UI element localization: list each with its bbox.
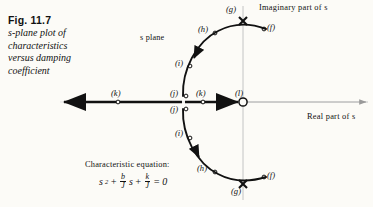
equation-title: Characteristic equation: [85, 160, 170, 169]
real-axis-label: Real part of s [307, 112, 355, 121]
marker-j-lower [184, 107, 188, 111]
label-k-left: (k) [111, 88, 121, 98]
label-i-upper: (i) [175, 58, 183, 68]
equation-term-s-linear: s [129, 176, 133, 187]
label-f-upper: (f) [267, 22, 275, 32]
equation-term-s: s [99, 176, 103, 187]
label-i-lower: (i) [175, 128, 183, 138]
equation-plus-1: + [110, 176, 117, 187]
marker-k-left [116, 100, 120, 104]
marker-l-origin [239, 98, 247, 106]
marker-k-right [201, 100, 205, 104]
imaginary-axis-label: Imaginary part of s [259, 3, 328, 12]
equation-equals-zero: = 0 [153, 176, 167, 187]
locus-arc-upper [183, 25, 266, 96]
label-g-upper: (g) [226, 4, 236, 14]
marker-j-upper [184, 94, 188, 98]
label-l-origin: (l) [235, 88, 243, 98]
equation-fraction-b-over-J: b J [120, 173, 126, 190]
label-j-upper: (j) [170, 88, 178, 98]
label-h-lower: (h) [197, 163, 207, 173]
figure-canvas: Fig. 11.7 s-plane plot of characteristic… [0, 0, 373, 207]
equation-exponent: 2 [105, 178, 108, 185]
equation-plus-2: + [135, 176, 142, 187]
fraction-numerator-k: k [145, 173, 151, 181]
characteristic-equation-block: Characteristic equation: s2 + b J s + k … [85, 160, 170, 190]
s-plane-label: s plane [140, 33, 164, 42]
fraction-denominator-J-1: J [120, 181, 126, 190]
s-plane-plot [0, 0, 373, 207]
label-g-lower: (g) [231, 186, 241, 196]
fraction-denominator-J-2: J [145, 181, 151, 190]
equation-fraction-k-over-J: k J [145, 173, 151, 190]
locus-arc-lower [183, 109, 266, 180]
label-h-upper: (h) [198, 24, 208, 34]
fraction-numerator-b: b [120, 173, 126, 181]
label-f-lower: (f) [267, 170, 275, 180]
label-j-lower: (j) [170, 104, 178, 114]
label-k-right: (k) [196, 88, 206, 98]
equation-expression: s2 + b J s + k J = 0 [99, 173, 170, 190]
